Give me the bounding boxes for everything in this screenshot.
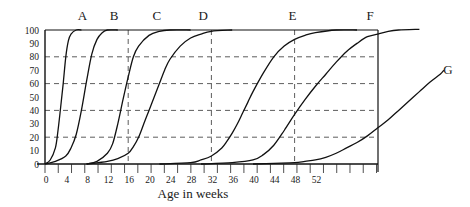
curve-label-e: E xyxy=(289,8,297,23)
x-tick-label: 24 xyxy=(166,175,176,185)
x-tick-label: 52 xyxy=(312,175,322,185)
y-tick-label: 80 xyxy=(30,52,40,62)
x-axis: 0481216202428323640444852 xyxy=(44,164,377,185)
x-tick-label: 36 xyxy=(228,175,238,185)
y-axis: 0102030405060708090100 xyxy=(25,26,40,170)
x-tick-label: 44 xyxy=(270,175,280,185)
x-tick-label: 8 xyxy=(85,175,90,185)
x-tick-label: 20 xyxy=(145,175,155,185)
y-tick-label: 90 xyxy=(30,39,40,49)
y-tick-label: 70 xyxy=(30,66,40,76)
y-tick-label: 0 xyxy=(34,160,39,170)
x-tick-label: 12 xyxy=(104,175,114,185)
curve-g xyxy=(253,70,444,164)
curve-label-d: D xyxy=(198,8,207,23)
curve-c xyxy=(87,30,191,164)
curves xyxy=(45,29,444,164)
gridlines xyxy=(45,30,378,164)
x-tick-label: 40 xyxy=(249,175,259,185)
x-tick-label: 28 xyxy=(187,175,197,185)
curve-label-b: B xyxy=(110,8,119,23)
plot-frame xyxy=(37,30,378,172)
curve-label-f: F xyxy=(366,8,373,23)
growth-curves-chart: 0102030405060708090100 04812162024283236… xyxy=(0,0,470,207)
x-tick-label: 32 xyxy=(208,175,218,185)
y-tick-label: 30 xyxy=(30,119,40,129)
y-tick-label: 50 xyxy=(30,93,40,103)
x-tick-label: 4 xyxy=(64,175,69,185)
y-tick-label: 40 xyxy=(30,106,40,116)
y-tick-label: 100 xyxy=(25,26,40,36)
curve-d xyxy=(87,30,233,164)
x-tick-label: 48 xyxy=(291,175,301,185)
curve-label-g: G xyxy=(443,62,452,77)
y-tick-label: 20 xyxy=(30,133,40,143)
y-tick-label: 60 xyxy=(30,79,40,89)
curve-f xyxy=(201,29,419,164)
chart-canvas: 0102030405060708090100 04812162024283236… xyxy=(0,0,470,207)
x-tick-label: 16 xyxy=(124,175,134,185)
curve-e xyxy=(159,30,357,164)
x-tick-label: 0 xyxy=(44,175,49,185)
y-tick-label: 10 xyxy=(30,146,40,156)
curve-label-c: C xyxy=(152,8,161,23)
curve-labels: ABCDEFG xyxy=(78,8,453,77)
curve-label-a: A xyxy=(78,8,88,23)
curve-a xyxy=(45,30,81,164)
x-axis-label: Age in weeks xyxy=(158,186,229,201)
